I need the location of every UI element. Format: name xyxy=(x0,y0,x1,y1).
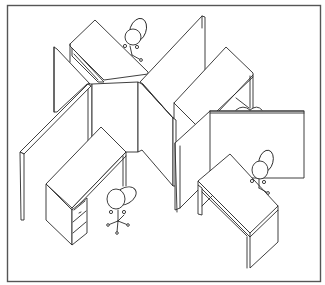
cubicle-line-drawing xyxy=(0,0,325,285)
cubicle-illustration: Four-station office cubicle workstation … xyxy=(0,0,325,285)
desk-left-cubicle xyxy=(46,127,126,245)
task-chair-left xyxy=(107,183,140,234)
